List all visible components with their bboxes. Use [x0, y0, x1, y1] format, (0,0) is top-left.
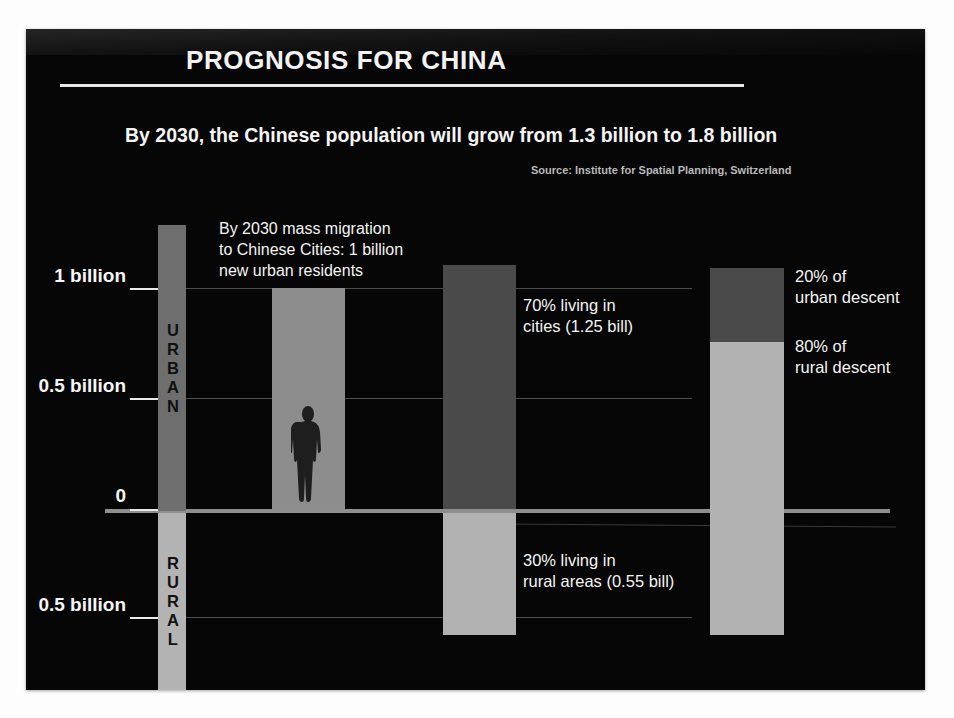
gridline-1-billion [159, 288, 692, 289]
chart-plot-area: 1 billion 0.5 billion 0 0.5 billion URBA… [26, 29, 925, 690]
legend-rural-column[interactable]: RURAL [158, 513, 186, 690]
gridline-0_5-billion [159, 398, 692, 399]
axis-label-0_5-billion-lower: 0.5 billion [26, 594, 126, 616]
page-background: PROGNOSIS FOR CHINA By 2030, the Chinese… [0, 0, 954, 718]
tick-rule-1-billion [130, 288, 159, 290]
annotation-urban-share: 70% living in cities (1.25 bill) [523, 295, 733, 338]
legend-urban-column[interactable]: URBAN [158, 225, 186, 511]
legend-rural-label: RURAL [161, 554, 183, 649]
annotation-mass-migration: By 2030 mass migration to Chinese Cities… [219, 219, 434, 281]
tick-rule-zero [130, 509, 159, 511]
tick-rule-minus-0_5-billion [130, 617, 159, 619]
annotation-descent-rural: 80% of rural descent [795, 336, 925, 379]
axis-label-0_5-billion-upper: 0.5 billion [26, 375, 126, 397]
tick-rule-0_5-billion [130, 398, 159, 400]
axis-label-zero: 0 [26, 485, 126, 507]
bar-rural-30-percent[interactable] [443, 513, 516, 635]
annotation-descent-urban: 20% of urban descent [795, 266, 925, 309]
slide-panel: PROGNOSIS FOR CHINA By 2030, the Chinese… [26, 29, 925, 690]
gridline-minus-0_5-billion [159, 617, 692, 618]
legend-urban-label: URBAN [161, 321, 183, 416]
annotation-rural-share: 30% living in rural areas (0.55 bill) [523, 550, 753, 593]
bar-urban-70-percent[interactable] [443, 265, 516, 509]
person-silhouette-icon [291, 405, 325, 509]
axis-label-1-billion: 1 billion [26, 265, 126, 287]
